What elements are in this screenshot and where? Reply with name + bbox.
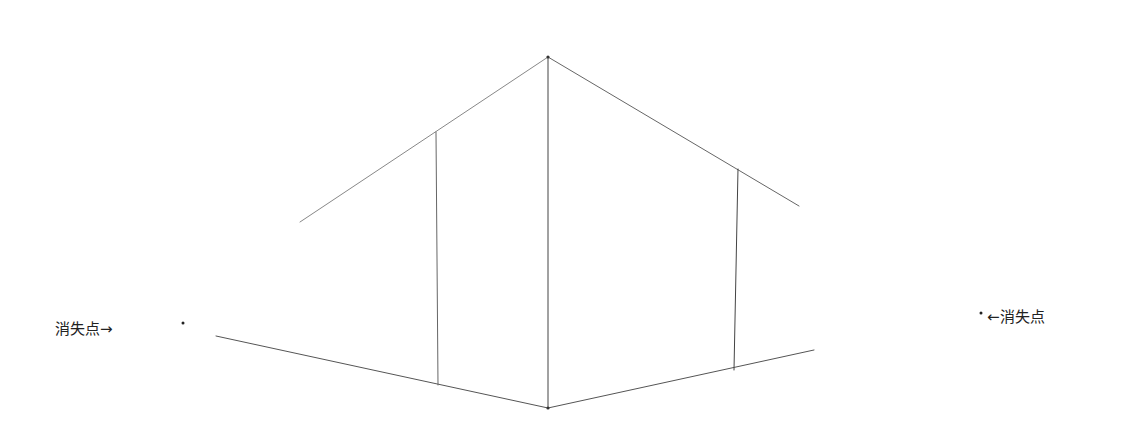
perspective-drawing (0, 0, 1134, 440)
bottom-vertex-dot (546, 406, 549, 409)
right-wall-vertical (734, 169, 738, 370)
right-vanishing-point-label: ←消失点 (987, 305, 1045, 326)
left-vanishing-point-label: 消失点→ (55, 317, 113, 338)
base-right-edge (548, 350, 814, 408)
base-left-edge (216, 336, 548, 408)
left-vanishing-point-dot (182, 322, 185, 325)
right-vanishing-point-dot (980, 312, 983, 315)
top-vertex-dot (546, 55, 549, 58)
left-wall-vertical (436, 132, 438, 385)
roof-right-edge (548, 57, 799, 206)
roof-left-edge (300, 57, 548, 222)
